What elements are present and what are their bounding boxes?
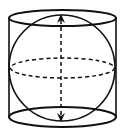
sphere-outline <box>9 15 115 121</box>
diagram-canvas <box>0 0 125 136</box>
sphere-in-cylinder-diagram <box>0 0 125 136</box>
equator-dashed-ellipse <box>11 58 115 78</box>
